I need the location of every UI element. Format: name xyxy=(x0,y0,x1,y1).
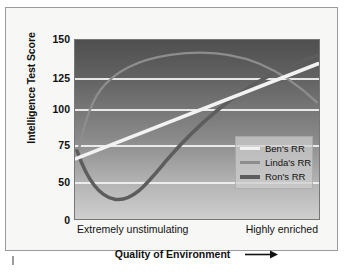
y-tick-150: 150 xyxy=(30,33,70,45)
figure-frame: Intelligence Test Score 150 125 100 75 5… xyxy=(5,7,338,251)
legend-label-lindas-rr: Linda's RR xyxy=(265,157,311,168)
legend-swatch-bens-rr xyxy=(240,147,260,150)
arrow-right-icon xyxy=(245,249,279,261)
legend-swatch-rons-rr xyxy=(240,175,260,179)
x-axis-label-left: Extremely unstimulating xyxy=(77,223,188,235)
chart-legend: Ben's RR Linda's RR Ron's RR xyxy=(235,136,313,189)
x-axis-title-text: Quality of Environment xyxy=(115,248,231,260)
legend-label-bens-rr: Ben's RR xyxy=(265,143,305,154)
legend-item-bens-rr[interactable]: Ben's RR xyxy=(236,142,312,155)
x-axis-label-right-text: Highly enriched xyxy=(246,223,318,235)
chart-figure: Intelligence Test Score 150 125 100 75 5… xyxy=(0,0,345,272)
x-axis-label-right: Highly enriched xyxy=(242,223,318,235)
series-lines xyxy=(75,40,319,219)
y-axis-ticks: 150 125 100 75 50 0 xyxy=(28,39,70,220)
legend-swatch-lindas-rr xyxy=(240,161,260,164)
series-line-lindas-rr xyxy=(79,53,317,149)
legend-item-lindas-rr[interactable]: Linda's RR xyxy=(236,156,312,169)
plot-area: Ben's RR Linda's RR Ron's RR xyxy=(74,39,320,220)
bottom-tick-mark xyxy=(12,256,14,265)
x-axis-label-left-text: Extremely unstimulating xyxy=(77,223,188,235)
y-tick-50: 50 xyxy=(30,176,70,188)
y-tick-125: 125 xyxy=(30,72,70,84)
y-tick-0: 0 xyxy=(30,214,70,226)
legend-item-rons-rr[interactable]: Ron's RR xyxy=(236,170,312,183)
legend-label-rons-rr: Ron's RR xyxy=(265,171,305,182)
y-tick-75: 75 xyxy=(30,139,70,151)
y-tick-100: 100 xyxy=(30,103,70,115)
x-axis-title: Quality of Environment xyxy=(74,248,320,261)
